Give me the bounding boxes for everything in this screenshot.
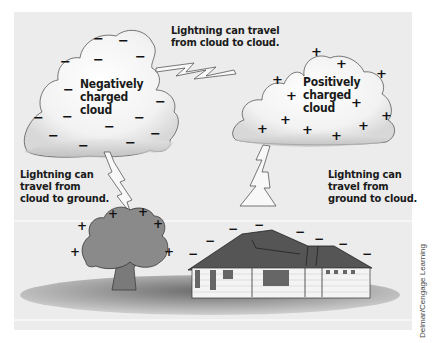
svg-text:−: −	[295, 225, 305, 239]
svg-text:−: −	[33, 110, 44, 125]
svg-text:+: +	[272, 72, 283, 87]
svg-text:+: +	[108, 207, 118, 221]
svg-text:−: −	[104, 119, 115, 134]
svg-text:+: +	[77, 219, 87, 233]
ground-to-cloud-label: Lightning can travel from ground to clou…	[328, 169, 417, 205]
svg-text:−: −	[48, 128, 59, 143]
svg-text:+: +	[257, 121, 268, 136]
negative-cloud-label: Negatively charged cloud	[80, 78, 143, 117]
cloud-to-ground-label: Lightning can travel from cloud to groun…	[20, 169, 109, 205]
svg-text:+: +	[164, 245, 174, 259]
svg-text:+: +	[336, 56, 347, 71]
svg-text:+: +	[331, 128, 342, 143]
svg-text:+: +	[138, 205, 148, 219]
svg-text:−: −	[135, 49, 146, 64]
svg-text:+: +	[153, 217, 163, 231]
svg-text:−: −	[93, 52, 104, 67]
svg-text:−: −	[125, 135, 136, 150]
svg-text:−: −	[62, 109, 73, 124]
image-credit: Delmar/Cengage Learning	[418, 244, 427, 338]
svg-text:−: −	[78, 138, 89, 153]
svg-text:+: +	[280, 112, 291, 127]
svg-text:−: −	[118, 33, 129, 48]
svg-text:+: +	[381, 108, 392, 123]
svg-text:+: +	[376, 66, 387, 81]
svg-text:−: −	[228, 222, 238, 236]
svg-text:+: +	[358, 118, 369, 133]
svg-text:−: −	[254, 218, 264, 232]
svg-text:+: +	[70, 245, 80, 259]
ground-to-cloud-bolt	[240, 145, 276, 206]
lightning-diagram: −− −−− −− −−− −− −−− +++ + +++ ++ +++	[0, 0, 439, 343]
house: −−− −−− −−	[188, 218, 372, 298]
positive-cloud-label: Positively charged cloud	[303, 76, 360, 115]
svg-text:−: −	[188, 247, 198, 261]
svg-text:−: −	[93, 31, 104, 46]
svg-text:−: −	[362, 247, 372, 261]
svg-text:+: +	[302, 122, 313, 137]
cloud-to-cloud-label: Lightning can travel from cloud to cloud…	[171, 25, 279, 49]
svg-text:−: −	[150, 126, 161, 141]
cloud-to-cloud-bolt	[156, 63, 236, 79]
svg-text:−: −	[205, 234, 215, 248]
svg-text:−: −	[155, 94, 166, 109]
svg-text:−: −	[63, 82, 74, 97]
svg-text:+: +	[311, 44, 322, 59]
svg-text:−: −	[60, 54, 71, 69]
svg-text:−: −	[338, 237, 348, 251]
svg-text:+: +	[286, 88, 297, 103]
svg-text:−: −	[314, 232, 324, 246]
